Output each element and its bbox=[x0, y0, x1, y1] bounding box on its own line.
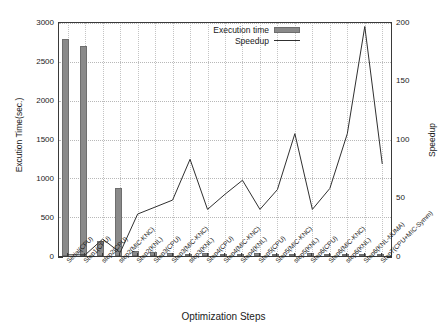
y-axis-tick-label: 0 bbox=[20, 253, 54, 261]
legend-item-speedup: Speedup bbox=[140, 35, 300, 46]
line-swatch-icon bbox=[274, 40, 300, 41]
plot-area bbox=[58, 22, 392, 257]
y2-axis-tick-label: 200 bbox=[396, 19, 426, 27]
y-axis-tick-label: 2000 bbox=[20, 97, 54, 105]
y-axis-tick-label: 3000 bbox=[20, 19, 54, 27]
x-axis-title: Optimization Steps bbox=[0, 311, 447, 322]
chart-container: 3000 2500 2000 1500 1000 500 0 200 150 1… bbox=[0, 0, 447, 336]
legend-item-execution-time: Execution time bbox=[140, 24, 300, 35]
speedup-polyline bbox=[68, 27, 383, 255]
y-axis-title: Excution Time(sec.) bbox=[14, 75, 24, 195]
y-axis-tick bbox=[58, 257, 63, 258]
y-axis-tick-label: 500 bbox=[20, 214, 54, 222]
bar-swatch-icon bbox=[274, 27, 300, 33]
y-axis-tick-label: 1500 bbox=[20, 136, 54, 144]
legend: Execution time Speedup bbox=[140, 24, 300, 46]
y2-axis-tick-label: 50 bbox=[396, 194, 426, 202]
legend-label: Execution time bbox=[213, 25, 269, 35]
y-axis-tick-label: 1000 bbox=[20, 175, 54, 183]
y2-axis-tick-label: 0 bbox=[396, 253, 426, 261]
y2-axis-tick-label: 150 bbox=[396, 77, 426, 85]
y-axis-tick-label: 2500 bbox=[20, 58, 54, 66]
y2-axis-title: Speedup bbox=[427, 80, 437, 200]
y2-axis-tick-label: 100 bbox=[396, 136, 426, 144]
legend-label: Speedup bbox=[235, 36, 269, 46]
speedup-line bbox=[59, 23, 391, 256]
plot-inner bbox=[59, 23, 391, 256]
